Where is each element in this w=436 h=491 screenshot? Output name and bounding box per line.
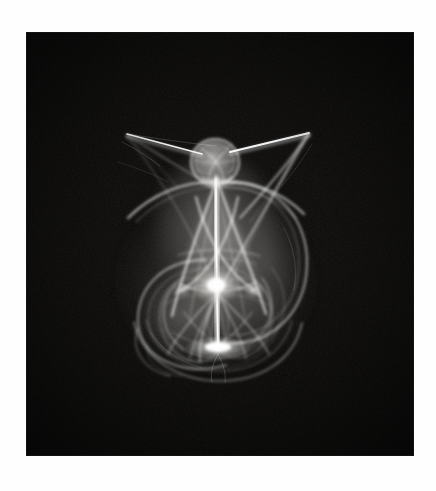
fractal-flame-image: [26, 32, 414, 456]
page-root: [0, 0, 436, 491]
artwork-panel: [26, 32, 414, 456]
